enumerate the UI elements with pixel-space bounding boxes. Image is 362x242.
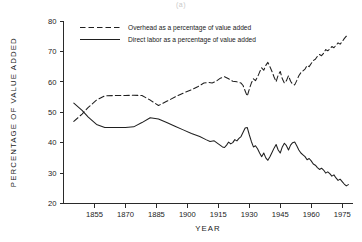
- x-axis-tick-label: 1915: [210, 210, 227, 219]
- y-axis-tick-label: 20: [48, 199, 56, 208]
- y-axis-tick-label: 30: [48, 169, 56, 178]
- legend-label-1: Direct labor as a percentage of value ad…: [128, 36, 256, 44]
- x-axis-tick-label: 1900: [179, 210, 196, 219]
- x-axis-tick-label: 1870: [117, 210, 134, 219]
- line-chart: 2030405060708018551870188519001915193019…: [0, 0, 362, 242]
- legend-label-0: Overhead as a percentage of value added: [128, 24, 252, 32]
- y-axis-tick-label: 40: [48, 138, 56, 147]
- x-axis-tick-label: 1945: [272, 210, 289, 219]
- y-axis-tick-label: 80: [48, 17, 56, 26]
- x-axis-tick-label: 1885: [148, 210, 165, 219]
- y-axis-tick-label: 70: [48, 47, 56, 56]
- x-axis-tick-label: 1855: [86, 210, 103, 219]
- x-axis-tick-label: 1975: [334, 210, 351, 219]
- x-axis-tick-label: 1960: [303, 210, 320, 219]
- x-axis-tick-label: 1930: [241, 210, 258, 219]
- y-axis-title: PERCENTAGE OF VALUE ADDED: [9, 37, 18, 187]
- chart-axes: [64, 21, 353, 204]
- y-axis-tick-label: 60: [48, 78, 56, 87]
- series-line-overhead: [74, 36, 349, 122]
- y-axis-tick-label: 50: [48, 108, 56, 117]
- figure-container: (a) 203040506070801855187018851900191519…: [0, 0, 362, 242]
- series-line-direct-labor: [74, 103, 349, 186]
- x-axis-title: YEAR: [195, 224, 221, 233]
